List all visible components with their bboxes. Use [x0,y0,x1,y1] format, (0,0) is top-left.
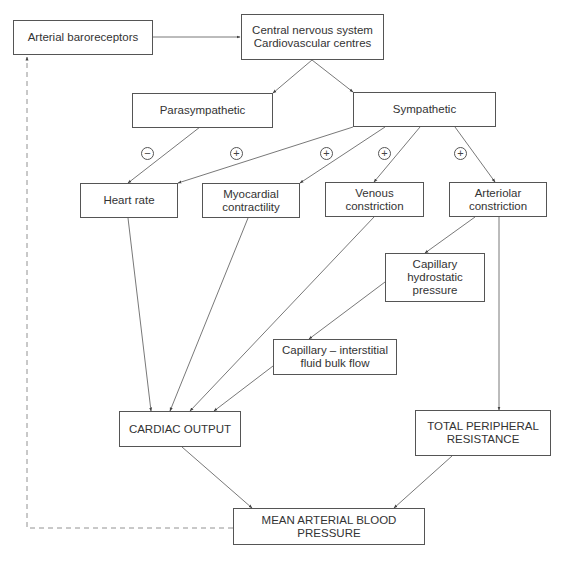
node-capillary-hydrostatic-pressure: Capillary hydrostatic pressure [385,253,485,302]
node-capillary-interstitial-flow: Capillary – interstitial fluid bulk flow [273,339,397,375]
node-total-peripheral-resistance: TOTAL PERIPHERAL RESISTANCE [415,410,551,456]
arrow-parasympathetic-to-heart-rate [128,127,200,183]
node-cardiac-output: CARDIAC OUTPUT [119,411,241,447]
node-venous-constriction: Venous constriction [325,182,424,217]
node-label: Capillary hydrostatic pressure [407,258,463,297]
arrow-cns-to-parasympathetic [273,60,312,93]
node-label: Arteriolar constriction [469,187,527,213]
node-label: MEAN ARTERIAL BLOOD PRESSURE [234,514,424,540]
node-label: Central nervous system Cardiovascular ce… [252,24,373,50]
node-central-nervous-system: Central nervous system Cardiovascular ce… [241,14,384,60]
minus-sign-icon: − [141,147,154,160]
arrow-co-to-map [182,447,252,508]
arrow-cap-hydro-to-interstitial [309,282,385,339]
node-arteriolar-constriction: Arteriolar constriction [449,182,547,217]
node-label: Venous constriction [345,187,403,213]
arrow-myocardial-to-co [170,218,248,411]
arrow-arteriolar-to-cap-hydro [425,217,475,253]
plus-sign-icon: + [230,147,243,160]
arrow-tpr-to-map [394,456,452,508]
node-label: Sympathetic [393,103,456,116]
node-parasympathetic: Parasympathetic [132,93,273,128]
arrow-venous-to-co [190,217,374,411]
arrow-interstitial-to-co [214,366,273,411]
node-label: CARDIAC OUTPUT [129,423,231,436]
plus-sign-icon: + [378,147,391,160]
node-myocardial-contractility: Myocardial contractility [202,183,300,218]
arrow-cns-to-sympathetic [312,60,353,92]
node-label: Capillary – interstitial fluid bulk flow [282,344,388,370]
node-sympathetic: Sympathetic [353,92,496,127]
node-heart-rate: Heart rate [80,183,178,218]
arrow-heart-rate-to-co [128,218,151,411]
plus-sign-icon: + [320,147,333,160]
node-label: Arterial baroreceptors [28,31,139,44]
node-label: TOTAL PERIPHERAL RESISTANCE [427,420,539,446]
node-label: Myocardial contractility [222,188,280,214]
node-label: Parasympathetic [160,104,246,117]
node-label: Heart rate [103,194,154,207]
plus-sign-icon: + [454,147,467,160]
arrow-sympathetic-to-myocardial [300,127,385,183]
node-arterial-baroreceptors: Arterial baroreceptors [13,20,153,55]
node-mean-arterial-blood-pressure: MEAN ARTERIAL BLOOD PRESSURE [233,508,425,545]
